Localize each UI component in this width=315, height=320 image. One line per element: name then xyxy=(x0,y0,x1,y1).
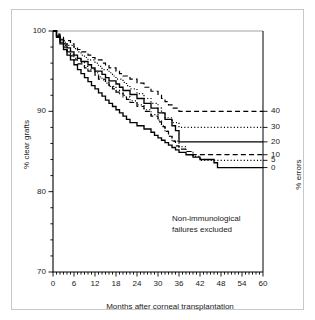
x-tick-label-36: 36 xyxy=(169,279,189,288)
y-axis-label-right: % errors xyxy=(294,147,303,203)
x-axis-label: Months after corneal transplantation xyxy=(64,302,276,311)
x-tick-label-30: 30 xyxy=(148,279,168,288)
annotation-line-2: failures excluded xyxy=(172,224,282,235)
secondary-tick-label-20: 20 xyxy=(271,137,287,146)
figure-container: 061218243036424854607080901004030201050 … xyxy=(0,0,315,320)
x-tick-label-12: 12 xyxy=(85,279,105,288)
tick-marks-group xyxy=(49,31,264,277)
x-tick-label-42: 42 xyxy=(190,279,210,288)
series-line-20-errors xyxy=(53,31,263,142)
x-tick-label-60: 60 xyxy=(253,279,273,288)
x-tick-label-54: 54 xyxy=(232,279,252,288)
secondary-tick-label-0: 0 xyxy=(271,163,287,172)
x-tick-label-48: 48 xyxy=(211,279,231,288)
secondary-tick-label-30: 30 xyxy=(271,122,287,131)
x-tick-label-6: 6 xyxy=(64,279,84,288)
x-tick-label-24: 24 xyxy=(127,279,147,288)
annotation-line-1: Non-immunological xyxy=(172,213,282,224)
chart-annotation: Non-immunological failures excluded xyxy=(172,213,282,235)
series-line-5-errors xyxy=(53,31,263,160)
data-series-group xyxy=(53,31,263,168)
series-line-40-errors xyxy=(53,31,263,111)
secondary-tick-label-40: 40 xyxy=(271,106,287,115)
figure-frame: 061218243036424854607080901004030201050 … xyxy=(11,9,304,310)
y-tick-label-80: 80 xyxy=(24,187,46,196)
secondary-axis-ticks xyxy=(263,111,268,167)
x-tick-label-0: 0 xyxy=(43,279,63,288)
y-tick-label-100: 100 xyxy=(24,26,46,35)
survival-chart-plot xyxy=(12,10,303,309)
y-axis-label-left: % clear grafts xyxy=(22,107,31,183)
y-tick-label-70: 70 xyxy=(24,267,46,276)
x-tick-label-18: 18 xyxy=(106,279,126,288)
